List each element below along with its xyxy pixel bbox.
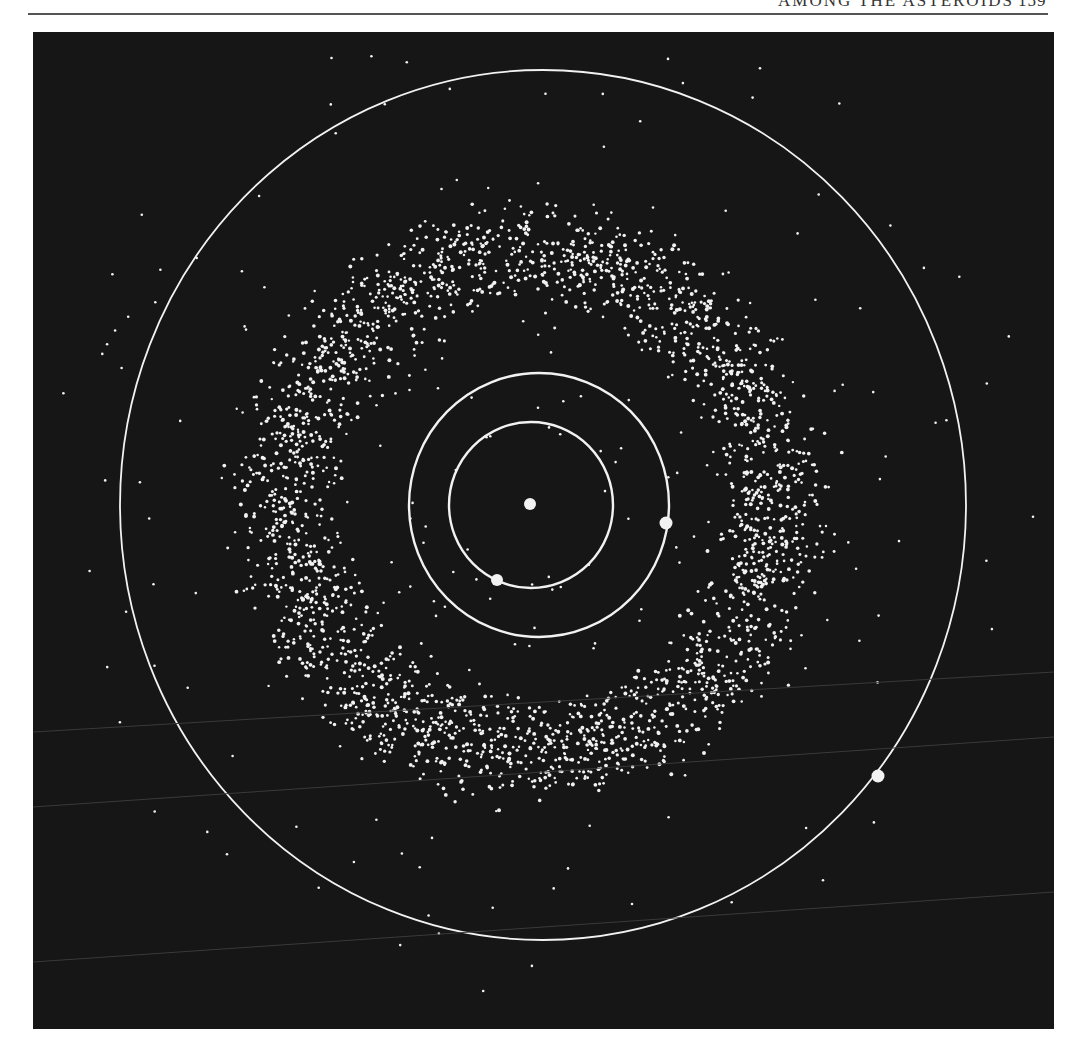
asteroid-dot xyxy=(643,277,646,280)
asteroid-dot xyxy=(334,132,337,135)
asteroid-dot xyxy=(274,510,277,513)
asteroid-dot xyxy=(716,319,720,323)
asteroid-dot xyxy=(231,755,234,758)
asteroid-dot xyxy=(246,546,249,549)
asteroid-dot xyxy=(316,514,319,517)
asteroid-dot xyxy=(426,700,429,703)
asteroid-dot xyxy=(464,763,468,767)
asteroid-dot xyxy=(749,347,752,350)
asteroid-dot xyxy=(762,451,765,454)
asteroid-dot xyxy=(600,269,603,272)
asteroid-dot xyxy=(702,751,706,755)
asteroid-dot xyxy=(695,372,699,376)
asteroid-dot xyxy=(692,399,695,402)
asteroid-dot xyxy=(785,425,789,429)
asteroid-dot xyxy=(467,765,470,768)
asteroid-dot xyxy=(740,422,744,426)
asteroid-dot xyxy=(663,269,666,272)
asteroid-dot xyxy=(532,742,535,745)
asteroid-dot xyxy=(374,752,377,755)
asteroid-dot xyxy=(683,353,686,356)
asteroid-dot xyxy=(401,852,404,855)
asteroid-dot xyxy=(377,307,380,310)
asteroid-dot xyxy=(792,576,794,578)
asteroid-dot xyxy=(454,709,457,712)
asteroid-dot xyxy=(305,544,308,547)
asteroid-dot xyxy=(753,429,757,433)
asteroid-dot xyxy=(441,357,444,360)
asteroid-dot xyxy=(405,302,408,305)
asteroid-dot xyxy=(518,775,522,779)
asteroid-dot xyxy=(553,267,556,270)
asteroid-dot xyxy=(329,387,332,390)
asteroid-dot xyxy=(502,282,505,285)
asteroid-dot xyxy=(898,540,901,543)
asteroid-dot xyxy=(388,324,391,327)
asteroid-dot xyxy=(536,287,540,291)
asteroid-dot xyxy=(482,236,486,240)
asteroid-dot xyxy=(336,659,339,662)
asteroid-dot xyxy=(521,241,525,245)
asteroid-dot xyxy=(259,379,263,383)
asteroid-dot xyxy=(748,490,751,493)
asteroid-dot xyxy=(310,606,313,609)
asteroid-dot xyxy=(602,733,604,735)
asteroid-dot xyxy=(325,467,328,470)
asteroid-dot xyxy=(375,337,378,340)
asteroid-dot xyxy=(732,679,735,682)
asteroid-dot xyxy=(704,707,708,711)
asteroid-dot xyxy=(311,300,314,303)
asteroid-dot xyxy=(265,527,268,530)
asteroid-dot xyxy=(739,561,743,565)
asteroid-dot xyxy=(594,747,597,750)
asteroid-dot xyxy=(571,715,574,718)
asteroid-dot xyxy=(765,395,768,398)
asteroid-dot xyxy=(576,228,580,232)
asteroid-dot xyxy=(283,616,286,619)
asteroid-dot xyxy=(411,684,414,687)
asteroid-dot xyxy=(338,409,341,412)
asteroid-dot xyxy=(683,634,686,637)
asteroid-dot xyxy=(722,398,725,401)
asteroid-dot xyxy=(360,589,364,593)
asteroid-dot xyxy=(684,774,687,777)
asteroid-dot xyxy=(604,490,607,493)
asteroid-dot xyxy=(644,686,647,689)
asteroid-dot xyxy=(584,305,587,308)
asteroid-dot xyxy=(286,543,289,546)
asteroid-dot xyxy=(741,608,744,611)
asteroid-dot xyxy=(542,280,546,284)
asteroid-dot xyxy=(667,375,670,378)
asteroid-dot xyxy=(267,416,270,419)
asteroid-dot xyxy=(339,745,342,748)
asteroid-dot xyxy=(721,711,724,714)
asteroid-dot xyxy=(639,120,642,123)
asteroid-dot xyxy=(306,415,309,418)
asteroid-dot xyxy=(653,726,656,729)
asteroid-dot xyxy=(153,664,156,667)
asteroid-dot xyxy=(273,493,276,496)
asteroid-dot xyxy=(337,426,340,429)
asteroid-dot xyxy=(384,308,388,312)
asteroid-dot xyxy=(747,658,750,661)
asteroid-dot xyxy=(330,313,333,316)
asteroid-dot xyxy=(440,286,443,289)
asteroid-dot xyxy=(249,480,252,483)
asteroid-dot xyxy=(316,464,319,467)
asteroid-dot xyxy=(711,686,714,689)
asteroid-dot xyxy=(600,728,603,731)
asteroid-dot xyxy=(728,629,731,632)
asteroid-dot xyxy=(648,298,650,300)
asteroid-dot xyxy=(378,735,381,738)
asteroid-dot xyxy=(691,638,694,641)
asteroid-dot xyxy=(381,295,383,297)
asteroid-dot xyxy=(408,679,411,682)
asteroid-dot xyxy=(579,756,582,759)
asteroid-dot xyxy=(368,737,371,740)
asteroid-dot xyxy=(234,531,237,534)
asteroid-dot xyxy=(575,777,578,780)
asteroid-dot xyxy=(341,331,344,334)
asteroid-dot xyxy=(815,542,818,545)
asteroid-dot xyxy=(745,380,749,384)
asteroid-dot xyxy=(685,708,688,711)
